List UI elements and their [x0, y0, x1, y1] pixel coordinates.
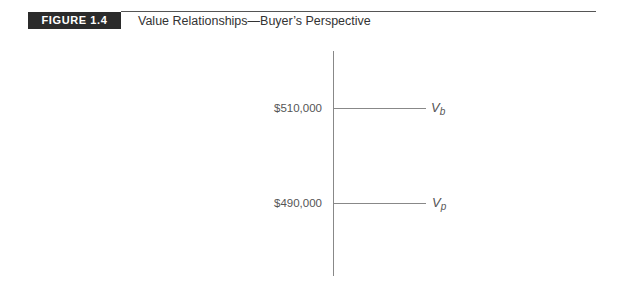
variable-symbol: V — [432, 195, 441, 210]
level-line-vp — [334, 203, 426, 204]
variable-label-vb: Vb — [431, 101, 445, 119]
vertical-axis — [333, 51, 334, 276]
value-label-510000: $510,000 — [222, 101, 322, 115]
variable-subscript: p — [441, 201, 447, 212]
header-rule — [121, 11, 596, 12]
variable-label-vp: Vp — [432, 196, 446, 214]
figure-badge: FIGURE 1.4 — [28, 12, 121, 29]
variable-subscript: b — [440, 106, 446, 117]
variable-symbol: V — [431, 100, 440, 115]
value-label-490000: $490,000 — [222, 196, 322, 210]
figure-title: Value Relationships—Buyer’s Perspective — [138, 13, 371, 29]
level-line-vb — [334, 108, 426, 109]
